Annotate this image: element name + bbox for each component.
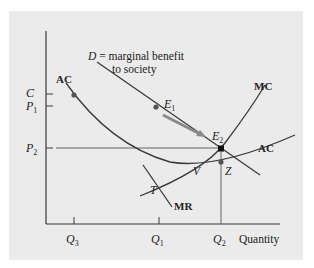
ac-right-label: AC bbox=[258, 142, 274, 154]
label-q2: Q2 bbox=[213, 232, 226, 248]
label-p2: P2 bbox=[25, 141, 37, 157]
e2-point-dot bbox=[218, 146, 224, 152]
z-point-dot bbox=[218, 159, 223, 164]
e2-label: E2 bbox=[211, 129, 223, 145]
v-label: V bbox=[193, 165, 202, 177]
mr-curve bbox=[143, 165, 172, 207]
mc-curve bbox=[140, 85, 265, 196]
movement-arrow bbox=[163, 115, 200, 134]
x-axis-label: Quantity bbox=[239, 233, 279, 246]
mr-label: MR bbox=[174, 200, 193, 212]
label-q3: Q3 bbox=[66, 232, 79, 248]
demand-curve bbox=[97, 62, 260, 175]
ac-point-dot bbox=[71, 92, 76, 97]
label-q1: Q1 bbox=[151, 232, 164, 248]
mc-label: MC bbox=[254, 80, 272, 92]
label-c: C bbox=[26, 86, 35, 100]
e1-label: E1 bbox=[163, 97, 175, 113]
label-p1: P1 bbox=[25, 99, 37, 115]
e1-point-dot bbox=[153, 104, 158, 109]
z-label: Z bbox=[225, 165, 232, 177]
demand-label-line2: to society bbox=[112, 63, 157, 76]
demand-label: D = marginal benefit bbox=[87, 50, 185, 63]
ac-left-label: AC bbox=[56, 73, 72, 85]
economics-diagram: C P1 P2 Q3 Q1 Q2 Quantity D = marginal b… bbox=[0, 0, 314, 268]
